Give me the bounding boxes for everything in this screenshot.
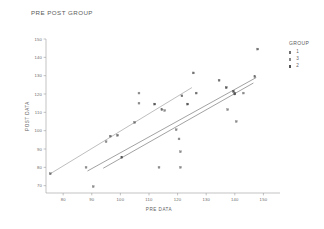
data-point [180, 151, 182, 153]
legend: GROUP 132 [286, 40, 322, 70]
svg-text:120: 120 [174, 197, 182, 202]
data-point [192, 72, 194, 74]
data-point [154, 103, 156, 105]
svg-text:120: 120 [34, 92, 42, 97]
data-point [134, 121, 136, 123]
svg-text:140: 140 [34, 55, 42, 60]
data-point [187, 103, 189, 105]
legend-entry[interactable]: 1 [286, 49, 322, 56]
data-point [121, 156, 123, 158]
legend-marker-icon [289, 51, 291, 53]
axes [46, 39, 280, 193]
data-point [242, 92, 244, 94]
legend-entry-label: 1 [296, 50, 299, 55]
data-point [227, 109, 229, 111]
svg-text:140: 140 [231, 197, 239, 202]
x-axis-label: PRE DATA [146, 207, 173, 212]
y-axis-label: POST DATA [25, 101, 30, 131]
data-point [218, 79, 220, 81]
data-point [161, 109, 163, 111]
svg-text:80: 80 [37, 165, 43, 170]
data-point [158, 166, 160, 168]
svg-text:80: 80 [61, 197, 67, 202]
group-3-fit [50, 88, 192, 174]
x-axis-ticks: 8090100110120130140150 [61, 193, 268, 202]
svg-text:90: 90 [89, 197, 95, 202]
y-axis-ticks: 708090100110120130140150 [34, 37, 46, 189]
legend-title: GROUP [286, 40, 322, 46]
data-point [109, 135, 111, 137]
svg-text:100: 100 [117, 197, 125, 202]
data-point [178, 138, 180, 140]
data-point [180, 166, 182, 168]
svg-text:110: 110 [35, 110, 43, 115]
data-point [234, 93, 236, 95]
data-point [117, 134, 119, 136]
data-point [254, 76, 256, 78]
data-point [232, 90, 234, 92]
legend-entries: 132 [286, 49, 322, 70]
data-point [225, 87, 227, 89]
plot-canvas: 8090100110120130140150 70809010011012013… [0, 0, 324, 229]
data-points [49, 48, 258, 187]
legend-entry[interactable]: 2 [286, 63, 322, 70]
legend-entry[interactable]: 3 [286, 56, 322, 63]
data-point [164, 110, 166, 112]
legend-entry-label: 3 [296, 57, 299, 62]
group-1-fit [87, 78, 256, 172]
data-point [195, 92, 197, 94]
svg-text:130: 130 [202, 197, 210, 202]
scatter-plot-figure: PRE POST GROUP 8090100110120130140150 70… [0, 0, 324, 229]
axis-lines [46, 39, 280, 193]
data-point [105, 141, 107, 143]
data-point [138, 92, 140, 94]
data-point [138, 102, 140, 104]
legend-marker-icon [289, 65, 291, 67]
svg-text:90: 90 [37, 147, 43, 152]
svg-text:130: 130 [34, 73, 42, 78]
svg-text:150: 150 [34, 37, 42, 42]
legend-entry-label: 2 [296, 64, 299, 69]
data-point [257, 48, 259, 50]
svg-text:110: 110 [145, 197, 153, 202]
svg-text:100: 100 [34, 128, 42, 133]
regression-lines [50, 78, 256, 174]
data-point [181, 95, 183, 97]
data-point [92, 186, 94, 188]
data-point [175, 129, 177, 131]
data-point [85, 166, 87, 168]
data-point [235, 121, 237, 123]
svg-text:70: 70 [37, 183, 43, 188]
legend-marker-icon [289, 58, 291, 60]
data-point [49, 173, 51, 175]
svg-text:150: 150 [260, 197, 268, 202]
